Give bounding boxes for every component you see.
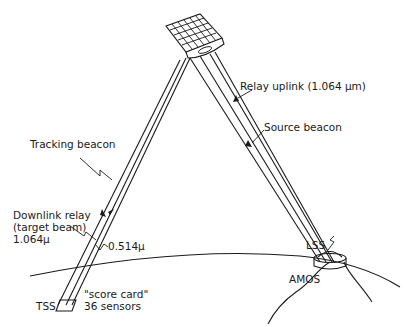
label-score-card-2: 36 sensors (84, 300, 141, 313)
mountain (268, 262, 330, 324)
label-source-beacon: Source beacon (264, 121, 342, 134)
leader-source-beacon (252, 130, 264, 143)
label-score-card-1: "score card" (84, 288, 148, 301)
arrow-source-beacon (245, 140, 252, 147)
label-amos: AMOS (289, 273, 320, 286)
leader-green (95, 244, 108, 250)
label-lss: LSS (306, 239, 325, 252)
label-downlink-1: Downlink relay (13, 209, 91, 222)
downlink-beams (58, 58, 190, 305)
leader-tracking (80, 158, 112, 180)
label-downlink-2: (target beam) (13, 221, 86, 234)
earth-horizon (30, 254, 400, 288)
label-tracking-beacon: Tracking beacon (30, 138, 115, 151)
label-tss: TSS (36, 300, 56, 313)
label-downlink-3: 1.064μ (13, 233, 50, 246)
label-green-wavelength: 0.514μ (108, 240, 145, 253)
laser-relay-diagram: Relay uplink (1.064 μm) Source beacon Tr… (0, 0, 406, 327)
satellite-icon (166, 14, 224, 58)
arrow-tracking (108, 209, 114, 215)
leader-lss (328, 236, 334, 250)
label-relay-uplink: Relay uplink (1.064 μm) (240, 80, 366, 93)
arrow-relay-uplink (233, 95, 239, 102)
